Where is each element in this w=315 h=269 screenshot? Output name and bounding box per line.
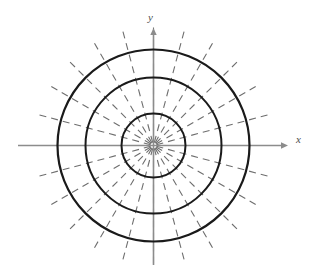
figure-background bbox=[0, 0, 315, 269]
polar-grid-figure: x y bbox=[0, 0, 315, 269]
polar-figure-container: x y bbox=[0, 0, 315, 269]
x-axis-label: x bbox=[295, 133, 301, 145]
y-axis-label: y bbox=[147, 11, 153, 23]
